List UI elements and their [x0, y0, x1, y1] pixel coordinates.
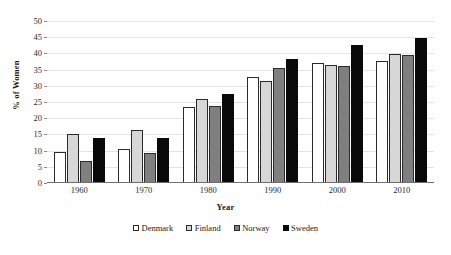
- bar-sweden-2010[interactable]: [415, 38, 427, 183]
- bar-finland-2000[interactable]: [325, 65, 337, 183]
- bar-denmark-1980[interactable]: [183, 107, 195, 183]
- plot-area: [47, 21, 434, 183]
- bar-finland-1990[interactable]: [260, 81, 272, 183]
- y-tick-label: 30: [20, 82, 42, 91]
- bar-norway-1990[interactable]: [273, 68, 285, 183]
- bar-finland-1970[interactable]: [131, 130, 143, 183]
- y-tick-label: 0: [20, 179, 42, 188]
- bar-sweden-2000[interactable]: [351, 45, 363, 183]
- bar-group: [176, 21, 241, 183]
- y-tick-label: 40: [20, 49, 42, 58]
- bar-group: [47, 21, 112, 183]
- x-tick-label: 2000: [305, 186, 370, 195]
- bar-denmark-1970[interactable]: [118, 149, 130, 183]
- legend-swatch-icon: [186, 225, 192, 231]
- bar-norway-1960[interactable]: [80, 161, 92, 183]
- bar-finland-2010[interactable]: [389, 54, 401, 183]
- y-tick-label: 5: [20, 163, 42, 172]
- bar-sweden-1990[interactable]: [286, 59, 298, 183]
- x-tick-label: 1960: [47, 186, 112, 195]
- legend-label: Norway: [242, 224, 269, 233]
- y-tick-label: 20: [20, 114, 42, 123]
- x-axis-line: [47, 182, 434, 183]
- legend-label: Sweden: [291, 224, 318, 233]
- bar-denmark-1960[interactable]: [54, 152, 66, 183]
- y-axis-line: [47, 21, 48, 183]
- x-axis-ticks: 196019701980199020002010: [47, 186, 434, 195]
- bar-group: [370, 21, 435, 183]
- legend-item-norway[interactable]: Norway: [234, 224, 270, 233]
- x-tick-label: 2010: [370, 186, 435, 195]
- bar-sweden-1960[interactable]: [93, 138, 105, 183]
- legend-swatch-icon: [133, 225, 139, 231]
- bar-denmark-2000[interactable]: [312, 63, 324, 183]
- y-tick-label: 50: [20, 17, 42, 26]
- bar-sweden-1980[interactable]: [222, 94, 234, 183]
- y-tick-label: 35: [20, 65, 42, 74]
- bar-norway-2000[interactable]: [338, 66, 350, 183]
- y-tick-label: 45: [20, 33, 42, 42]
- bar-denmark-1990[interactable]: [247, 77, 259, 183]
- bar-finland-1960[interactable]: [67, 134, 79, 183]
- legend-item-denmark[interactable]: Denmark: [133, 224, 173, 233]
- bar-sweden-1970[interactable]: [157, 138, 169, 183]
- legend-item-finland[interactable]: Finland: [186, 224, 220, 233]
- legend-label: Denmark: [142, 224, 174, 233]
- x-axis-title: Year: [0, 202, 451, 212]
- y-tick-mark: [44, 183, 47, 184]
- x-tick-label: 1970: [112, 186, 177, 195]
- y-tick-label: 15: [20, 130, 42, 139]
- legend-swatch-icon: [234, 225, 240, 231]
- bar-norway-2010[interactable]: [402, 55, 414, 183]
- bar-groups: [47, 21, 434, 183]
- bar-group: [241, 21, 306, 183]
- bar-chart: % of Women 05101520253035404550 19601970…: [0, 0, 451, 255]
- x-tick-label: 1980: [176, 186, 241, 195]
- bar-group: [112, 21, 177, 183]
- bar-denmark-2010[interactable]: [376, 61, 388, 183]
- x-tick-label: 1990: [241, 186, 306, 195]
- legend-item-sweden[interactable]: Sweden: [283, 224, 318, 233]
- legend: DenmarkFinlandNorwaySweden: [0, 224, 451, 233]
- bar-norway-1970[interactable]: [144, 153, 156, 183]
- legend-swatch-icon: [283, 225, 289, 231]
- y-tick-label: 10: [20, 146, 42, 155]
- legend-label: Finland: [195, 224, 221, 233]
- bar-group: [305, 21, 370, 183]
- y-tick-label: 25: [20, 98, 42, 107]
- bar-finland-1980[interactable]: [196, 99, 208, 183]
- bar-norway-1980[interactable]: [209, 106, 221, 183]
